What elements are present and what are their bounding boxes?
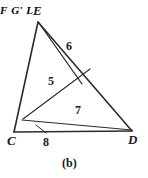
region-label-5: 5: [48, 75, 54, 87]
segment-E-C: [14, 22, 38, 132]
segment-L-D-sliver: [22, 120, 132, 130]
vertex-label-C: C: [7, 134, 16, 147]
edge-label-8: 8: [43, 136, 49, 148]
figure-canvas: [0, 0, 148, 178]
figure-caption: (b): [62, 157, 77, 169]
segment-C-D: [14, 131, 132, 132]
edge-label-6: 6: [66, 40, 72, 52]
region-label-7: 7: [75, 104, 81, 116]
segment-E-G-sliver: [39, 23, 82, 84]
vertex-label-D: D: [128, 133, 137, 146]
geometry-figure: E C D F G' L 5 7 6 8 (b): [0, 0, 148, 178]
vertex-label-E: E: [33, 4, 42, 17]
